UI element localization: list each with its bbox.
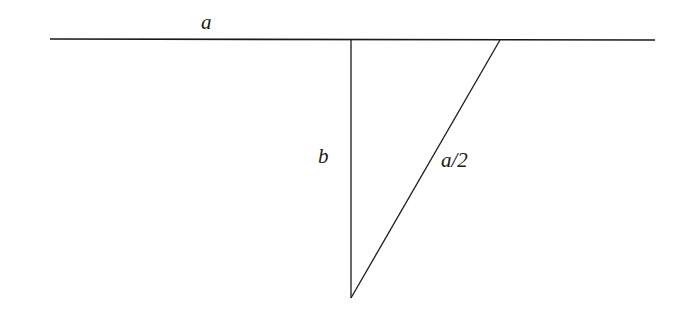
hypotenuse-a-half bbox=[351, 40, 500, 298]
diagram-canvas: a b a/2 bbox=[0, 0, 678, 317]
label-a-half: a/2 bbox=[441, 150, 468, 171]
label-a: a bbox=[201, 12, 212, 33]
top-line bbox=[50, 39, 655, 40]
diagram-lines bbox=[0, 0, 678, 317]
label-b: b bbox=[318, 146, 329, 167]
